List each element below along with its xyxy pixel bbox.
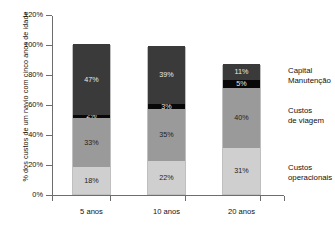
y-tick-label: 60% (28, 100, 43, 109)
legend-entry-1[interactable]: CapitalManutenção (288, 66, 331, 85)
bar-segment-value: 18% (84, 177, 98, 184)
x-tick (110, 196, 111, 201)
bar-segment[interactable]: 18% (73, 167, 110, 194)
bar-segment[interactable]: 31% (223, 148, 260, 195)
bar-segment[interactable]: 35% (148, 109, 185, 162)
y-tick-label: 20% (28, 160, 43, 169)
legend-label-line1: Custos (288, 106, 324, 116)
bar-segment-value: 11% (235, 68, 249, 75)
y-tick-label: 80% (28, 70, 43, 79)
y-axis-line (52, 16, 53, 196)
y-tick: 60% (46, 105, 52, 106)
y-tick-label: 0% (32, 190, 43, 199)
x-tick (185, 196, 186, 201)
x-tick (52, 196, 53, 201)
y-tick: 80% (46, 75, 52, 76)
x-tick (260, 196, 261, 201)
y-tick-label: 40% (28, 130, 43, 139)
legend-label-line2: de viagem (288, 116, 324, 126)
x-tick (284, 196, 285, 201)
bar-segment[interactable]: 40% (223, 88, 260, 148)
bar-2[interactable]: 22%35%3%39% (147, 47, 186, 196)
bar-segment[interactable]: 22% (148, 161, 185, 194)
bar-segment-value: 22% (159, 174, 173, 181)
legend-entry-3[interactable]: Custosoperacionais (288, 163, 332, 182)
bar-segment[interactable]: 39% (148, 46, 185, 105)
bar-3[interactable]: 31%40%5%11% (222, 65, 261, 196)
legend-label-line2: operacionais (288, 173, 332, 183)
chart-legend: CapitalManutençãoCustosde viagemCustosop… (288, 0, 335, 229)
y-tick-label: 120% (24, 10, 43, 19)
bar-segment-value: 47% (84, 76, 98, 83)
bar-segment-value: 5% (236, 80, 246, 87)
bar-segment[interactable]: 2% (73, 115, 110, 118)
bar-segment-value: 33% (84, 139, 98, 146)
bar-segment[interactable]: 5% (223, 80, 260, 88)
bar-segment[interactable]: 3% (148, 104, 185, 109)
x-axis-label-1: 5 anos (80, 207, 103, 216)
bar-segment-value: 31% (234, 167, 248, 174)
legend-entry-2[interactable]: Custosde viagem (288, 106, 324, 125)
x-axis-label-2: 10 anos (153, 207, 180, 216)
x-axis-line (52, 195, 284, 196)
x-axis-label-3: 20 anos (228, 207, 255, 216)
y-tick: 100% (46, 45, 52, 46)
y-tick: 20% (46, 165, 52, 166)
bar-segment[interactable]: 47% (73, 44, 110, 115)
y-tick-label: 100% (24, 40, 43, 49)
bar-segment[interactable]: 11% (223, 64, 260, 81)
legend-label-line1: Custos (288, 163, 332, 173)
bar-segment-value: 35% (159, 131, 173, 138)
bar-segment-value: 39% (159, 71, 173, 78)
bar-segment-value: 40% (234, 114, 248, 121)
y-tick: 40% (46, 135, 52, 136)
y-tick: 120% (46, 15, 52, 16)
plot-area: 0%20%40%60%80%100%120% 5 anos10 anos20 a… (52, 16, 284, 196)
bar-1[interactable]: 18%33%2%47% (72, 45, 111, 195)
legend-label-line1: Capital (288, 66, 331, 76)
bar-segment[interactable]: 33% (73, 118, 110, 168)
stacked-bar-chart: % dos custos de um navio com cinco anos … (0, 0, 335, 229)
legend-label-line2: Manutenção (288, 76, 331, 86)
